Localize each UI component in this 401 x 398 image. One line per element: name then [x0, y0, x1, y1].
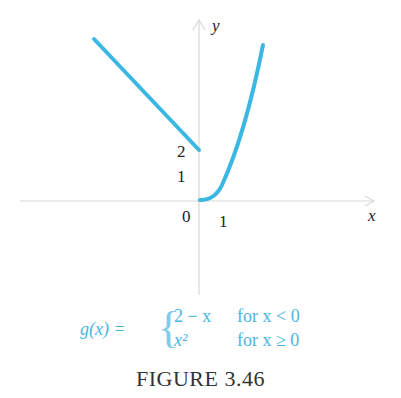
- case2-condition: for x ≥ 0: [237, 330, 299, 351]
- y-axis-label: y: [212, 16, 220, 36]
- case1-expression: 2 − x: [174, 306, 211, 327]
- y-tick-1: 1: [177, 167, 186, 187]
- case1-condition: for x < 0: [237, 306, 300, 327]
- graph: [0, 0, 401, 398]
- formula-lhs: g(x) =: [80, 319, 126, 340]
- case2-expression: x²: [174, 330, 187, 351]
- x-axis-label: x: [368, 206, 376, 226]
- origin-label: 0: [182, 207, 191, 227]
- y-tick-2: 2: [177, 142, 186, 162]
- x-tick-1: 1: [219, 212, 228, 232]
- line-2-minus-x: [94, 39, 199, 150]
- figure-caption: FIGURE 3.46: [0, 366, 401, 392]
- curve-x-squared: [200, 45, 263, 200]
